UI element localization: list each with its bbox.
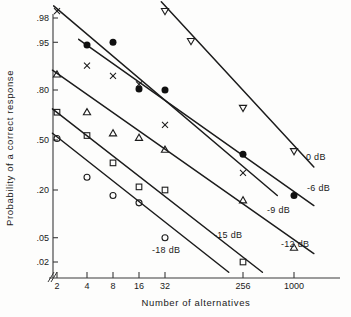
x-tick-label: 256 bbox=[235, 281, 250, 291]
fit-line--6db bbox=[79, 39, 314, 205]
fit-line-0db bbox=[161, 2, 314, 167]
fit-line--18db bbox=[52, 133, 228, 272]
fit-line--9db bbox=[54, 6, 278, 196]
series-labels: 0 dB-6 dB-9 dB-12 dB-15 dB-18 dB bbox=[152, 152, 330, 255]
data-point-triangle-down bbox=[187, 39, 194, 45]
data-point-circle bbox=[110, 193, 116, 199]
series-label--15db: -15 dB bbox=[214, 230, 242, 240]
series-label--6db: -6 dB bbox=[307, 183, 330, 193]
y-tick-label: .05 bbox=[36, 233, 49, 243]
data-point-triangle-up bbox=[239, 197, 246, 203]
x-tick-label: 8 bbox=[110, 281, 115, 291]
x-tick-label: 16 bbox=[134, 281, 144, 291]
x-tick-label: 32 bbox=[160, 281, 170, 291]
data-point-triangle-down bbox=[239, 105, 246, 111]
data-point-square bbox=[240, 259, 246, 265]
data-point-triangle-up bbox=[109, 130, 116, 136]
figure-root: .98.95.80.50.20.05.0224816322561000 0 dB… bbox=[0, 0, 351, 317]
data-point-circle bbox=[84, 42, 91, 49]
y-tick-label: .50 bbox=[36, 135, 49, 145]
data-point-circle bbox=[162, 235, 168, 241]
y-tick-label: .20 bbox=[36, 185, 49, 195]
x-tick-label: 1000 bbox=[284, 281, 304, 291]
x-tick-label: 2 bbox=[54, 281, 59, 291]
data-point-triangle-down bbox=[161, 8, 168, 14]
fit-lines bbox=[52, 2, 313, 272]
x-axis-title: Number of alternatives bbox=[142, 297, 251, 308]
series-label--9db: -9 dB bbox=[267, 205, 290, 215]
series-label-0db: 0 dB bbox=[306, 152, 326, 162]
y-tick-label: .98 bbox=[36, 13, 49, 23]
y-tick-label: .02 bbox=[36, 257, 49, 267]
data-point-triangle-up bbox=[135, 134, 142, 140]
data-point-circle bbox=[110, 39, 117, 46]
series-label--12db: -12 dB bbox=[281, 239, 309, 249]
fit-line--12db bbox=[52, 70, 313, 253]
data-point-triangle-up bbox=[83, 109, 90, 115]
data-point-triangle-down bbox=[290, 149, 297, 155]
data-point-square bbox=[110, 160, 116, 166]
x-tick-label: 4 bbox=[84, 281, 89, 291]
data-point-circle bbox=[240, 151, 247, 158]
y-tick-label: .95 bbox=[36, 38, 49, 48]
data-point-circle bbox=[291, 192, 298, 199]
y-tick-label: .80 bbox=[36, 85, 49, 95]
y-axis-title: Probability of a correct response bbox=[4, 70, 15, 226]
probability-vs-alternatives-chart: .98.95.80.50.20.05.0224816322561000 0 dB… bbox=[0, 0, 351, 317]
data-point-square bbox=[136, 184, 142, 190]
data-point-square bbox=[162, 187, 168, 193]
series-label--18db: -18 dB bbox=[152, 245, 180, 255]
data-point-circle bbox=[84, 174, 90, 180]
data-markers bbox=[53, 8, 297, 265]
data-point-circle bbox=[162, 87, 169, 94]
